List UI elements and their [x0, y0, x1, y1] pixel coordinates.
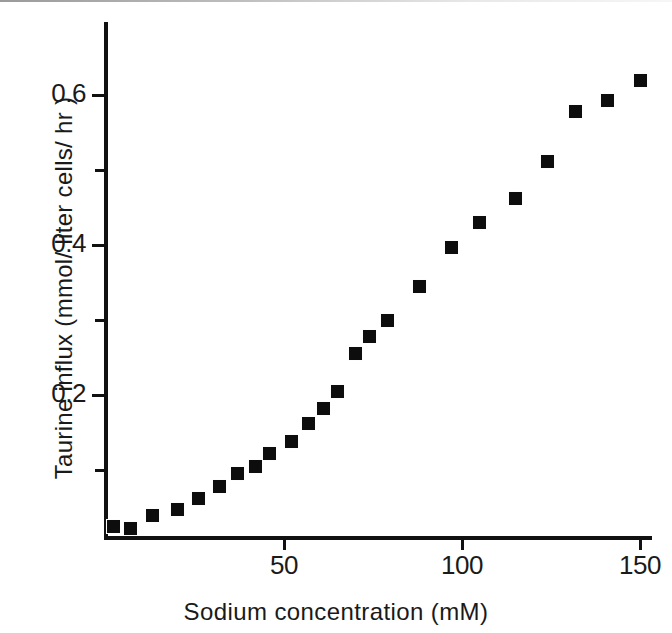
data-point-marker — [146, 509, 159, 522]
y-axis-tick — [92, 94, 105, 97]
x-axis-tick — [639, 538, 642, 550]
data-point-marker — [302, 417, 315, 430]
y-axis-title: Taurine influx (mmol/ liter cells/ hr ) — [50, 28, 78, 548]
data-point-marker — [601, 94, 614, 107]
data-point-marker — [331, 385, 344, 398]
data-point-marker — [349, 347, 362, 360]
data-point-marker — [249, 460, 262, 473]
data-point-marker — [317, 402, 330, 415]
y-axis-line — [104, 22, 108, 540]
y-axis-tick — [92, 394, 105, 397]
data-point-marker — [569, 105, 582, 118]
x-axis-title: Sodium concentration (mM) — [0, 598, 672, 626]
x-axis-line — [104, 536, 652, 540]
data-point-marker — [509, 192, 522, 205]
data-point-marker — [541, 155, 554, 168]
data-point-marker — [263, 447, 276, 460]
data-point-marker — [124, 522, 137, 535]
data-point-marker — [413, 280, 426, 293]
x-axis-tick-label: 100 — [422, 550, 502, 581]
data-point-marker — [473, 216, 486, 229]
data-point-marker — [213, 480, 226, 493]
data-point-marker — [445, 241, 458, 254]
data-point-marker — [231, 467, 244, 480]
figure-panel: 0.20.40.650100150 Sodium concentration (… — [0, 0, 672, 633]
x-axis-tick — [461, 538, 464, 550]
data-point-marker — [171, 503, 184, 516]
x-axis-tick — [283, 538, 286, 550]
y-axis-tick — [95, 319, 105, 322]
y-axis-title-wrapper: Taurine influx (mmol/ liter cells/ hr ) — [50, 28, 90, 548]
data-point-marker — [363, 330, 376, 343]
x-axis-tick-label: 150 — [600, 550, 672, 581]
data-point-marker — [192, 492, 205, 505]
y-axis-tick — [95, 169, 105, 172]
y-axis-tick — [95, 469, 105, 472]
data-point-marker — [285, 435, 298, 448]
data-point-marker — [634, 74, 647, 87]
data-point-marker — [381, 314, 394, 327]
y-axis-tick — [92, 244, 105, 247]
x-axis-tick-label: 50 — [244, 550, 324, 581]
plot-area: 0.20.40.650100150 — [0, 0, 672, 633]
data-point-marker — [107, 520, 120, 533]
